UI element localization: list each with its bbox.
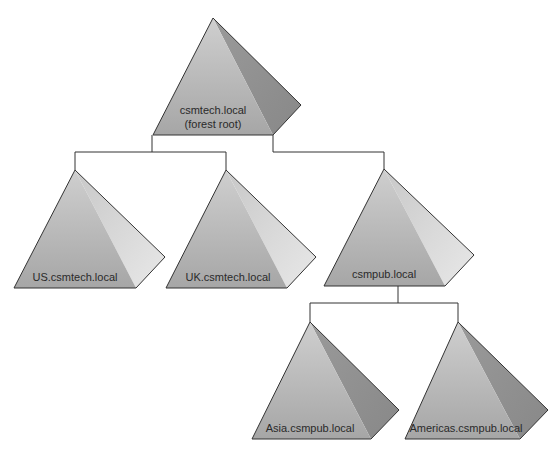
domain-node-asia[interactable]: Asia.csmpub.local (252, 322, 399, 439)
domain-tree-diagram: csmtech.local (forest root) US.csmtech.l… (0, 0, 560, 452)
node-label-root: csmtech.local (180, 104, 247, 116)
domain-node-us[interactable]: US.csmtech.local (14, 170, 165, 288)
node-label-us: US.csmtech.local (33, 271, 118, 283)
node-label-asia: Asia.csmpub.local (266, 422, 355, 434)
node-label-uk: UK.csmtech.local (186, 271, 271, 283)
node-sublabel-root: (forest root) (185, 118, 242, 130)
domain-node-uk[interactable]: UK.csmtech.local (166, 170, 316, 288)
connector-root-children (75, 135, 384, 170)
connector-csmpub-children (310, 286, 458, 322)
node-label-csmpub: csmpub.local (352, 268, 416, 280)
domain-node-americas[interactable]: Americas.csmpub.local (405, 322, 548, 439)
node-label-americas: Americas.csmpub.local (409, 422, 522, 434)
domain-node-root[interactable]: csmtech.local (forest root) (153, 18, 301, 135)
domain-node-csmpub[interactable]: csmpub.local (324, 169, 474, 286)
